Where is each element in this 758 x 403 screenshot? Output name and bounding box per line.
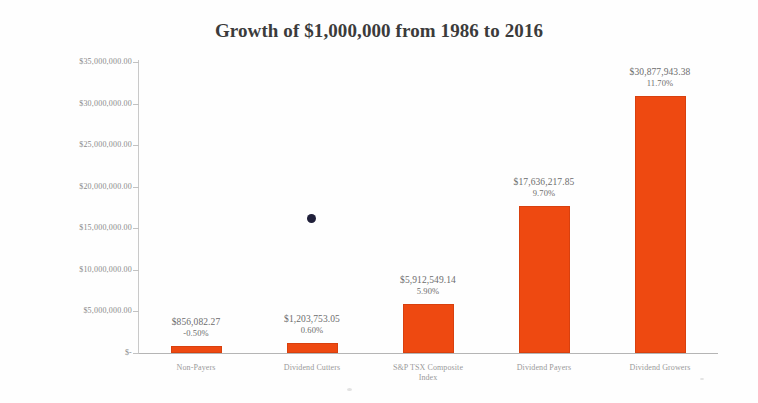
x-axis-category-label: S&P TSX CompositeIndex	[368, 363, 488, 383]
bar[interactable]	[287, 343, 338, 353]
y-axis-tick-label: $25,000,000.00	[79, 140, 132, 149]
y-axis-tick-mark	[133, 104, 139, 105]
scan-artifact-dot	[307, 214, 316, 223]
x-axis-category-label-line: Dividend Payers	[484, 363, 604, 373]
x-axis-category-label-line: Dividend Growers	[600, 363, 720, 373]
y-axis-tick-label: $-	[125, 348, 132, 357]
x-axis-category-label-line: Non-Payers	[136, 363, 256, 373]
bar-value-label: $1,203,753.05	[242, 314, 382, 324]
bar-value-label: $30,877,943.38	[590, 67, 730, 77]
x-axis-category-label-line: S&P TSX Composite	[368, 363, 488, 373]
scan-artifact-speck	[700, 378, 704, 380]
y-axis-tick-mark	[133, 353, 139, 354]
bar[interactable]	[403, 304, 454, 353]
bar-value-label: $5,912,549.14	[358, 275, 498, 285]
x-axis-line	[138, 353, 718, 354]
bar-data-label: $30,877,943.3811.70%	[590, 67, 730, 88]
y-axis-tick-label: $5,000,000.00	[83, 306, 132, 315]
y-axis-tick-label: $10,000,000.00	[79, 265, 132, 274]
x-axis-category-label: Dividend Payers	[484, 363, 604, 373]
y-axis-tick-label: $20,000,000.00	[79, 182, 132, 191]
bar-value-label: $17,636,217.85	[474, 177, 614, 187]
bar-percent-label: 0.60%	[242, 325, 382, 335]
y-axis-tick-label: $35,000,000.00	[79, 57, 132, 66]
bar-data-label: $5,912,549.145.90%	[358, 275, 498, 296]
bar-data-label: $1,203,753.050.60%	[242, 314, 382, 335]
x-axis-category-label: Dividend Cutters	[252, 363, 372, 373]
y-axis-tick-mark	[133, 311, 139, 312]
x-axis-category-label-line: Dividend Cutters	[252, 363, 372, 373]
x-axis-category-label: Dividend Growers	[600, 363, 720, 373]
chart-container: Growth of $1,000,000 from 1986 to 2016 $…	[0, 0, 758, 403]
scan-artifact-speck	[347, 388, 352, 391]
x-axis-category-label-line: Index	[368, 373, 488, 383]
y-axis-tick-mark	[133, 228, 139, 229]
bar-percent-label: 11.70%	[590, 78, 730, 88]
y-axis-tick-mark	[133, 62, 139, 63]
x-axis-category-label: Non-Payers	[136, 363, 256, 373]
bar-percent-label: 9.70%	[474, 188, 614, 198]
y-axis-tick-labels: $35,000,000.00$30,000,000.00$25,000,000.…	[34, 0, 132, 403]
bar-percent-label: 5.90%	[358, 286, 498, 296]
bar[interactable]	[171, 346, 222, 353]
y-axis-tick-label: $15,000,000.00	[79, 223, 132, 232]
y-axis-tick-label: $30,000,000.00	[79, 99, 132, 108]
bar[interactable]	[635, 96, 686, 353]
bar[interactable]	[519, 206, 570, 353]
bar-data-label: $17,636,217.859.70%	[474, 177, 614, 198]
y-axis-tick-mark	[133, 187, 139, 188]
y-axis-tick-mark	[133, 145, 139, 146]
y-axis-tick-mark	[133, 270, 139, 271]
